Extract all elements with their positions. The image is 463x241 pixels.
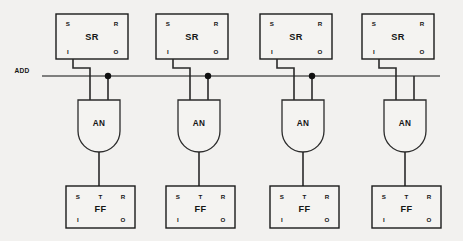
sr-block-3[interactable]: SRSRIO	[260, 14, 332, 59]
ff-pin-o-3: O	[324, 216, 329, 223]
ff-block-label-1: FF	[94, 204, 106, 214]
stage-group-2: SRSRIOANSTRFFIO	[156, 14, 235, 228]
bus-junction-dot-3	[309, 73, 315, 79]
wire-sr-to-and-4	[379, 59, 396, 100]
diagram-canvas: ADDSRSRIOANSTRFFIOSRSRIOANSTRFFIOSRSRIOA…	[0, 0, 463, 241]
sr-block-label-1: SR	[85, 32, 99, 42]
sr-pin-s-2: S	[166, 20, 170, 27]
ff-block-4[interactable]: STRFFIO	[372, 186, 441, 228]
ff-pin-r-2: R	[221, 193, 226, 200]
ff-pin-t-3: T	[303, 193, 307, 200]
sr-pin-o-2: O	[213, 48, 218, 55]
ff-pin-s-3: S	[280, 193, 284, 200]
bus-junction-dot-2	[205, 73, 211, 79]
ff-pin-t-2: T	[199, 193, 203, 200]
wire-sr-to-and-1	[73, 59, 90, 100]
ff-block-label-2: FF	[194, 204, 206, 214]
sr-pin-i-1: I	[67, 48, 69, 55]
ff-block-3[interactable]: STRFFIO	[270, 186, 339, 228]
sr-block-label-2: SR	[185, 32, 199, 42]
ff-pin-o-4: O	[426, 216, 431, 223]
sr-pin-r-1: R	[114, 20, 119, 27]
ff-pin-i-2: I	[177, 216, 179, 223]
ff-pin-o-2: O	[220, 216, 225, 223]
ff-block-2[interactable]: STRFFIO	[166, 186, 235, 228]
wire-sr-to-and-3	[277, 59, 294, 100]
sr-pin-r-4: R	[420, 20, 425, 27]
ff-pin-i-1: I	[77, 216, 79, 223]
sr-pin-r-3: R	[318, 20, 323, 27]
stage-group-3: SRSRIOANSTRFFIO	[260, 14, 339, 228]
logic-circuit-diagram: ADDSRSRIOANSTRFFIOSRSRIOANSTRFFIOSRSRIOA…	[0, 0, 463, 241]
sr-pin-s-3: S	[270, 20, 274, 27]
sr-pin-o-1: O	[113, 48, 118, 55]
ff-pin-t-1: T	[99, 193, 103, 200]
and-gate-3[interactable]: AN	[282, 100, 324, 152]
ff-pin-r-4: R	[427, 193, 432, 200]
sr-pin-i-3: I	[271, 48, 273, 55]
ff-pin-o-1: O	[120, 216, 125, 223]
and-gate-1[interactable]: AN	[78, 100, 120, 152]
sr-pin-r-2: R	[214, 20, 219, 27]
sr-block-label-3: SR	[289, 32, 303, 42]
stage-group-4: SRSRIOANSTRFFIO	[362, 14, 441, 228]
ff-pin-s-2: S	[176, 193, 180, 200]
and-gate-label-3: AN	[297, 119, 310, 128]
ff-pin-r-1: R	[121, 193, 126, 200]
and-gate-label-1: AN	[93, 119, 106, 128]
sr-block-4[interactable]: SRSRIO	[362, 14, 434, 59]
sr-pin-o-4: O	[419, 48, 424, 55]
ff-pin-t-4: T	[405, 193, 409, 200]
sr-pin-o-3: O	[317, 48, 322, 55]
ff-pin-s-4: S	[382, 193, 386, 200]
wire-sr-to-and-2	[173, 59, 190, 100]
and-gate-label-2: AN	[193, 119, 206, 128]
ff-pin-i-4: I	[383, 216, 385, 223]
ff-pin-s-1: S	[76, 193, 80, 200]
and-gate-4[interactable]: AN	[384, 100, 426, 152]
bus-junction-dot-1	[105, 73, 111, 79]
ff-block-label-4: FF	[400, 204, 412, 214]
sr-block-2[interactable]: SRSRIO	[156, 14, 228, 59]
and-gate-2[interactable]: AN	[178, 100, 220, 152]
and-gate-label-4: AN	[399, 119, 412, 128]
ff-pin-r-3: R	[325, 193, 330, 200]
ff-block-1[interactable]: STRFFIO	[66, 186, 135, 228]
ff-pin-i-3: I	[281, 216, 283, 223]
sr-block-label-4: SR	[391, 32, 405, 42]
add-bus-label: ADD	[14, 67, 29, 74]
sr-pin-s-4: S	[372, 20, 376, 27]
sr-pin-i-4: I	[373, 48, 375, 55]
sr-pin-i-2: I	[167, 48, 169, 55]
ff-block-label-3: FF	[298, 204, 310, 214]
stage-group-1: SRSRIOANSTRFFIO	[56, 14, 135, 228]
sr-pin-s-1: S	[66, 20, 70, 27]
sr-block-1[interactable]: SRSRIO	[56, 14, 128, 59]
